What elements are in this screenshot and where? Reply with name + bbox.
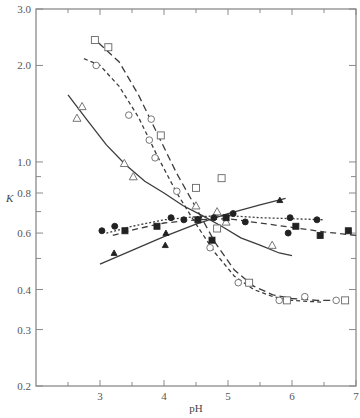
open-circle-marker [148,116,155,123]
filled-square-marker [154,223,160,229]
ph-vs-k-chart: 0.20.30.40.60.81.02.03.0 34567 pH K [0,0,360,418]
y-tick-label: 0.2 [17,380,31,392]
filled-circle-marker [168,215,174,221]
filled-triangle-marker [162,242,168,247]
y-tick-label: 1.0 [17,156,31,168]
filled-circle-marker [211,215,217,221]
open-circle-marker [207,244,214,251]
open-triangle-marker [213,208,221,215]
open-square-marker [193,184,200,191]
open-circle-marker [302,293,309,300]
open-circle-marker [146,137,153,144]
open-circle-marker [235,279,242,286]
open-square-marker [157,132,164,139]
filled-circle-marker [285,230,291,236]
x-axis-label: pH [189,402,203,414]
filled-triangle-marker [111,250,117,255]
filled-square-marker [209,237,215,243]
filled-circle-marker [242,219,248,225]
plot-frame [36,9,356,386]
open-square-marker [283,297,290,304]
y-axis-ticks: 0.20.30.40.60.81.02.03.0 [17,3,356,392]
y-tick-label: 3.0 [17,3,31,15]
y-tick-label: 0.4 [17,284,31,296]
filled-circle-marker [314,217,320,223]
x-tick-label: 3 [97,390,103,402]
data-markers [73,37,351,304]
filled-circle-marker [99,228,105,234]
filled-square-marker [317,232,323,238]
open-circle-marker [126,112,133,119]
x-tick-label: 4 [161,390,167,402]
open-square-marker [342,297,349,304]
y-tick-label: 0.6 [17,227,31,239]
open-circle-marker [174,188,181,195]
filled-square-marker [195,217,201,223]
fit-curves [68,43,356,302]
open-triangle-marker [73,114,81,121]
open-circle-marker [152,155,159,162]
y-tick-label: 2.0 [17,59,31,71]
open-circle-marker [93,62,100,69]
filled-triangle-marker [163,230,169,235]
filled-square-marker [122,228,128,234]
x-tick-label: 6 [289,390,295,402]
filled-circle-marker [230,211,236,217]
open-square-marker [91,37,98,44]
open-circle-marker [276,297,283,304]
open-triangle-marker [268,241,276,248]
fit-open-circles-curve [84,59,324,303]
x-tick-label: 7 [353,390,359,402]
y-tick-label: 0.3 [17,324,31,336]
filled-square-marker [293,223,299,229]
open-square-marker [105,44,112,51]
open-square-marker [246,279,253,286]
filled-circle-marker [287,215,293,221]
y-axis-label: K [5,192,14,204]
filled-circle-marker [181,217,187,223]
open-circle-marker [333,297,340,304]
open-square-marker [214,225,221,232]
y-tick-label: 0.8 [17,187,31,199]
filled-square-marker [345,228,351,234]
x-tick-label: 5 [225,390,231,402]
open-square-marker [218,175,225,182]
x-axis-ticks: 34567 [68,9,359,402]
filled-square-marker [223,215,229,221]
open-triangle-marker [78,102,86,109]
filled-circle-marker [112,223,118,229]
